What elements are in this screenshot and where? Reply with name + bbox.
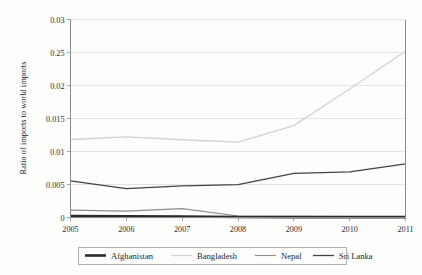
x-tick-label: 2006	[118, 225, 134, 234]
y-tick-label: 0.25	[50, 49, 64, 58]
y-axis-title: Ratio of imports to world imports	[19, 62, 28, 175]
legend-label-afghanistan: Afghanistan	[111, 251, 154, 261]
legend-label-sri-lanka: Sri Lanka	[339, 251, 373, 261]
x-tick-label: 2007	[174, 225, 190, 234]
chart-legend: AfghanistanBangladeshNepalSri Lanka	[78, 247, 373, 264]
y-tick-label: 0.02	[50, 82, 64, 91]
chart-figure: 00.0050.010.0150.020.250.03 200520062007…	[0, 0, 422, 275]
legend-label-nepal: Nepal	[281, 251, 302, 261]
y-tick-label: 0.01	[50, 148, 64, 157]
series-line-sri-lanka	[71, 164, 406, 189]
y-tick-label: 0.005	[46, 181, 64, 190]
x-tick-label: 2008	[230, 225, 246, 234]
x-tick-label: 2005	[62, 225, 78, 234]
x-axis-ticks: 2005200620072008200920102011	[62, 218, 413, 234]
x-tick-label: 2010	[341, 225, 357, 234]
line-chart: 00.0050.010.0150.020.250.03 200520062007…	[0, 0, 422, 275]
x-tick-label: 2009	[286, 225, 302, 234]
series-line-bangladesh	[71, 51, 406, 142]
grid-lines	[71, 20, 406, 185]
y-tick-label: 0.015	[46, 115, 64, 124]
y-tick-label: 0.03	[50, 16, 64, 25]
series-lines	[71, 51, 406, 217]
y-tick-label: 0	[60, 214, 64, 223]
legend-label-bangladesh: Bangladesh	[197, 251, 238, 261]
x-tick-label: 2011	[397, 225, 413, 234]
y-axis-ticks: 00.0050.010.0150.020.250.03	[46, 16, 70, 223]
